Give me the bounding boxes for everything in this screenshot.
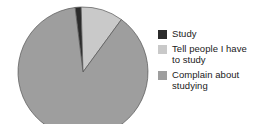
legend-swatch-tell-people — [158, 45, 167, 54]
legend-label-study: Study — [172, 28, 197, 40]
legend-swatch-study — [158, 30, 167, 39]
legend-label-complain: Complain about studying — [172, 69, 239, 92]
legend-label-tell-people: Tell people I have to study — [172, 43, 247, 66]
pie-slice-group — [18, 7, 148, 124]
chart-legend: Study Tell people I have to study Compla… — [158, 28, 263, 95]
pie-svg — [0, 0, 155, 124]
pie-plot-area — [0, 0, 155, 124]
pie-chart-figure: Study Tell people I have to study Compla… — [0, 0, 263, 124]
legend-item-tell-people[interactable]: Tell people I have to study — [158, 43, 263, 66]
legend-item-study[interactable]: Study — [158, 28, 263, 40]
legend-item-complain[interactable]: Complain about studying — [158, 69, 263, 92]
legend-swatch-complain — [158, 71, 167, 80]
